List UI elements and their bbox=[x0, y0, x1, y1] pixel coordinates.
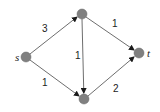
edge-a-t bbox=[86, 17, 134, 50]
flow-network-diagram: s t 3 1 1 1 2 bbox=[0, 0, 160, 112]
weight-a-b: 1 bbox=[75, 50, 81, 61]
weight-a-t: 1 bbox=[112, 18, 118, 29]
weight-b-t: 2 bbox=[113, 83, 119, 94]
node-a bbox=[77, 9, 87, 19]
node-label-t: t bbox=[147, 47, 151, 59]
edge-b-t bbox=[88, 57, 134, 96]
node-label-s: s bbox=[15, 51, 19, 63]
weight-s-b: 1 bbox=[42, 77, 48, 88]
edge-s-a bbox=[30, 17, 77, 54]
weight-s-a: 3 bbox=[42, 23, 48, 34]
node-b bbox=[79, 94, 89, 104]
edge-s-b bbox=[30, 60, 79, 96]
edge-a-b bbox=[82, 19, 84, 93]
node-s bbox=[21, 52, 31, 62]
node-t bbox=[134, 48, 144, 58]
